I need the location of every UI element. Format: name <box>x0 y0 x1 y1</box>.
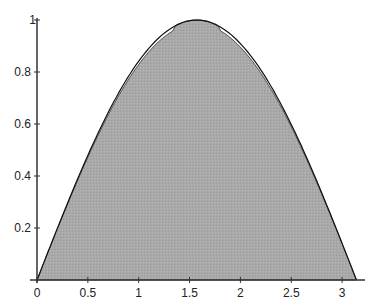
y-tick-label: 0.2 <box>14 221 31 235</box>
y-tick-label: 0.8 <box>14 65 31 79</box>
x-tick-label: 2.5 <box>283 286 300 300</box>
parabola-area <box>37 20 357 280</box>
y-tick-label: 0.4 <box>14 169 31 183</box>
y-tick-label: 1 <box>29 13 36 27</box>
chart: 00.511.522.53 0.20.40.60.81 <box>0 0 380 305</box>
x-tick-label: 0 <box>34 286 41 300</box>
x-tick-label: 1.5 <box>181 286 198 300</box>
y-ticks: 0.20.40.60.81 <box>14 13 40 235</box>
x-tick-label: 3 <box>339 286 346 300</box>
x-tick-label: 2 <box>237 286 244 300</box>
x-tick-label: 1 <box>135 286 142 300</box>
y-tick-label: 0.6 <box>14 117 31 131</box>
x-tick-label: 0.5 <box>80 286 97 300</box>
